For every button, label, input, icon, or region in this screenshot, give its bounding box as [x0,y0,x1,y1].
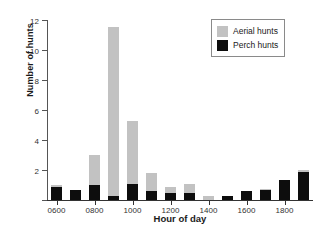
y-tick-label: 6 [35,106,39,115]
y-tick-mark [42,140,47,141]
bar-segment-perch-0600 [51,187,63,200]
bar-segment-perch-0800 [89,185,101,200]
bar-0600 [51,185,63,200]
bar-segment-perch-1800 [279,180,291,200]
bar-segment-perch-0900 [108,196,120,201]
x-axis-line [47,200,313,201]
bar-1500 [222,196,234,201]
bar-1900 [298,170,310,200]
y-tick-6: 6 [42,110,47,111]
legend-label-aerial-hunts: Aerial hunts [233,26,278,36]
bar-segment-perch-1500 [222,196,234,201]
legend-item-aerial-hunts: Aerial hunts [217,24,278,38]
y-axis-line [47,20,48,201]
bar-segment-perch-1100 [146,191,158,200]
y-tick-mark [42,200,47,201]
y-tick-mark [42,170,47,171]
x-tick-mark-0800 [95,201,96,205]
bar-segment-aerial-1400 [203,196,215,201]
x-tick-mark-1400 [209,201,210,205]
bar-segment-perch-1300 [184,193,196,201]
x-tick-mark-1000 [133,201,134,205]
y-tick-10: 10 [42,50,47,51]
y-tick-mark [42,80,47,81]
bar-1100 [146,173,158,200]
x-tick-mark-1800 [285,201,286,205]
bar-segment-perch-1200 [165,193,177,201]
bar-1300 [184,184,196,200]
y-tick-4: 4 [42,140,47,141]
legend-item-perch-hunts: Perch hunts [217,38,278,52]
bar-segment-perch-1900 [298,172,310,200]
y-tick-label: 10 [30,46,39,55]
x-tick-mark-0600 [57,201,58,205]
bar-1700 [260,189,272,200]
bar-segment-aerial-0900 [108,27,120,196]
bar-1000 [127,121,139,200]
bar-segment-aerial-1100 [146,173,158,191]
y-tick-mark [42,50,47,51]
x-tick-mark-1600 [247,201,248,205]
bar-segment-perch-1600 [241,191,253,200]
y-tick-label: 4 [35,136,39,145]
bar-segment-aerial-0800 [89,155,101,185]
bar-segment-perch-1000 [127,184,139,201]
y-tick-mark [42,110,47,111]
bar-1200 [165,187,177,200]
y-tick-label: 2 [35,166,39,175]
legend-swatch-perch-hunts [217,40,228,51]
x-tick-mark-1200 [171,201,172,205]
y-tick-8: 8 [42,80,47,81]
x-axis-title: Hour of day [47,213,313,224]
y-tick-0 [42,200,47,201]
bar-segment-aerial-1300 [184,184,196,192]
y-tick-mark [42,20,47,21]
bar-segment-perch-0700 [70,190,82,201]
bar-segment-perch-1700 [260,190,272,201]
chart-legend: Aerial hunts Perch hunts [211,19,285,57]
y-tick-label: 12 [30,16,39,25]
y-tick-2: 2 [42,170,47,171]
bar-0700 [70,190,82,201]
legend-label-perch-hunts: Perch hunts [233,40,278,50]
y-tick-12: 12 [42,20,47,21]
bar-segment-aerial-1000 [127,121,139,183]
bar-1800 [279,180,291,200]
bar-1400 [203,196,215,201]
bar-0800 [89,155,101,200]
hunts-by-hour-chart: Number of hunts 24681012 060008001000120… [0,0,321,239]
bar-0900 [108,27,120,200]
y-tick-label: 8 [35,76,39,85]
legend-swatch-aerial-hunts [217,26,228,37]
bar-1600 [241,191,253,200]
